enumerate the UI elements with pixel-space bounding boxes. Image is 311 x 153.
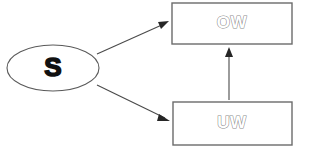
edge-uw-to-ow (225, 47, 233, 100)
ow-node-label: OW (217, 13, 248, 32)
edge-source-to-ow-line (97, 24, 164, 54)
diagram-canvas: S OW UW (0, 0, 311, 153)
edge-source-to-ow (97, 21, 169, 54)
edge-source-to-uw (97, 85, 170, 121)
node-source[interactable]: S (7, 45, 99, 91)
source-node-label: S (44, 52, 61, 82)
node-uw[interactable]: UW (173, 102, 292, 145)
edge-uw-to-ow-arrowhead-icon (225, 47, 233, 57)
node-ow[interactable]: OW (172, 3, 292, 44)
edge-source-to-uw-line (97, 85, 165, 118)
diagram-container: S OW UW (0, 0, 311, 153)
edge-source-to-uw-arrowhead-icon (157, 114, 170, 121)
uw-node-label: UW (217, 113, 247, 132)
edge-source-to-ow-arrowhead-icon (158, 21, 169, 29)
